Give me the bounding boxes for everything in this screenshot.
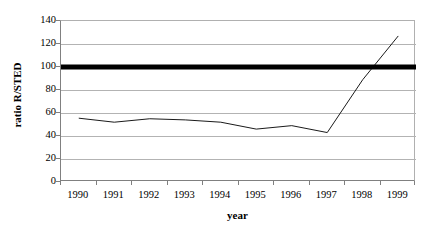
x-axis-tick-mark [273,181,274,185]
x-axis-tick-mark [344,181,345,185]
y-axis-tick-label: 20 [26,153,56,163]
y-axis-tick-labels: 020406080100120140 [26,20,56,181]
x-axis-tick-mark [380,181,381,185]
x-axis-tick-mark [96,181,97,185]
x-axis-tick-mark [167,181,168,185]
y-axis-tick-label: 80 [26,84,56,94]
data-series-line [79,36,399,133]
y-axis-tick-label: 0 [26,176,56,186]
x-axis-tick-mark [202,181,203,185]
y-axis-tick-label: 60 [26,107,56,117]
y-axis-title: ratio R/STED [6,0,28,190]
gridlines [61,21,416,159]
plot-svg [61,21,416,182]
x-axis-tick-labels: 1990199119921993199419951996199719981999 [60,188,415,204]
x-axis-tick-mark [238,181,239,185]
x-axis-title: year [60,209,415,221]
x-axis-tick-mark [309,181,310,185]
y-axis-tick-label: 100 [26,61,56,71]
chart-container: ratio R/STED 020406080100120140 19901991… [0,0,433,239]
y-axis-title-text: ratio R/STED [11,62,23,127]
x-axis-tick-mark [60,181,61,185]
y-axis-tick-label: 140 [26,15,56,25]
series-layer [61,36,416,133]
x-axis-tick-marks [60,181,415,186]
y-axis-tick-label: 120 [26,38,56,48]
x-axis-tick-mark [414,181,415,185]
y-axis-tick-label: 40 [26,130,56,140]
x-axis-tick-label: 1999 [375,188,419,201]
x-axis-tick-mark [131,181,132,185]
plot-area [60,20,415,181]
